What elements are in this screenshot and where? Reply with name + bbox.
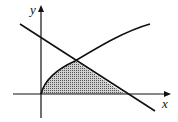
decreasing-line xyxy=(20,24,155,111)
y-axis-arrow-icon xyxy=(38,5,44,12)
diagram: y x xyxy=(0,0,178,122)
shaded-region xyxy=(41,61,125,94)
y-axis-label: y xyxy=(28,2,36,17)
x-axis-label: x xyxy=(161,96,168,111)
